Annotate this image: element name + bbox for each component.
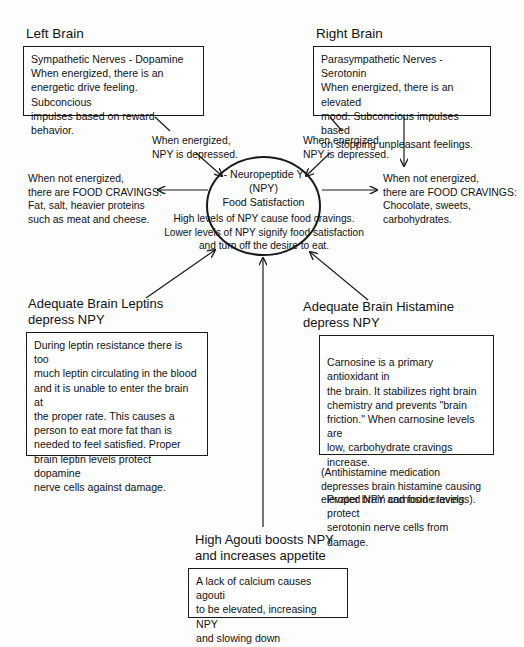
left-energized-note: When energized, NPY is depressed. bbox=[152, 134, 238, 161]
leptins-box: During leptin resistance there is too mu… bbox=[26, 332, 208, 456]
connector-leftbrain-leader bbox=[155, 117, 170, 131]
npy-ellipse-label: - Neuropeptide Y (NPY) Food Satisfaction bbox=[197, 167, 330, 209]
left-brain-heading: Left Brain bbox=[26, 26, 84, 42]
right-brain-box: Parasympathetic Nerves - Serotonin When … bbox=[313, 46, 491, 116]
connector-histamine-to-npy bbox=[310, 252, 368, 300]
right-brain-heading: Right Brain bbox=[316, 26, 383, 42]
connector-leptins-to-npy bbox=[146, 250, 215, 298]
right-energized-note: When energized, NPY is depressed. bbox=[303, 134, 389, 161]
left-brain-box: Sympathetic Nerves - Dopamine When energ… bbox=[23, 46, 204, 116]
leptins-heading: Adequate Brain Leptins depress NPY bbox=[28, 296, 163, 327]
histamine-box: Carnosine is a primary antioxidant in th… bbox=[319, 335, 494, 455]
agouti-heading: High Agouti boosts NPY and increases app… bbox=[195, 532, 334, 563]
histamine-body-part1: Carnosine is a primary antioxidant in th… bbox=[327, 356, 477, 467]
npy-ellipse-subtext: High levels of NPY cause food cravings. … bbox=[164, 212, 364, 253]
agouti-box: A lack of calcium causes agouti to be el… bbox=[188, 568, 348, 618]
diagram-canvas: Left Brain Sympathetic Nerves - Dopamine… bbox=[0, 0, 524, 647]
histamine-footnote: (Antihistamine medication depresses brai… bbox=[321, 466, 481, 507]
right-cravings-note: When not energized, there are FOOD CRAVI… bbox=[383, 172, 517, 226]
histamine-heading: Adequate Brain Histamine depress NPY bbox=[303, 299, 454, 330]
left-cravings-note: When not energized, there are FOOD CRAVI… bbox=[28, 172, 162, 226]
